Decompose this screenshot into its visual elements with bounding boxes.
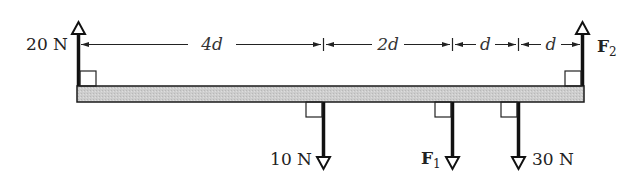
dimension-label-2d: 2d xyxy=(376,34,399,54)
dimension-label-d-1: d xyxy=(480,34,491,54)
right-angle-marker xyxy=(435,102,451,117)
force-arrow-20n-up xyxy=(72,22,96,86)
dimension-label-d-2: d xyxy=(546,34,557,54)
force-label-30n: 30 N xyxy=(532,149,574,169)
right-angle-marker xyxy=(306,102,322,117)
force-label-f1: F1 xyxy=(421,148,441,171)
force-label-20n: 20 N xyxy=(26,34,68,54)
right-angle-marker xyxy=(565,71,581,86)
dimension-label-4d: 4d xyxy=(200,34,223,54)
force-label-10n: 10 N xyxy=(270,149,312,169)
force-label-f2: F2 xyxy=(597,36,617,59)
right-angle-marker xyxy=(501,102,517,117)
right-angle-marker xyxy=(80,71,96,86)
beam-diagram: 20 N F2 10 N F1 30 N 4d xyxy=(0,0,632,189)
force-arrow-f2-up xyxy=(565,22,589,86)
beam xyxy=(77,86,584,102)
force-arrow-30n-down xyxy=(501,102,525,169)
